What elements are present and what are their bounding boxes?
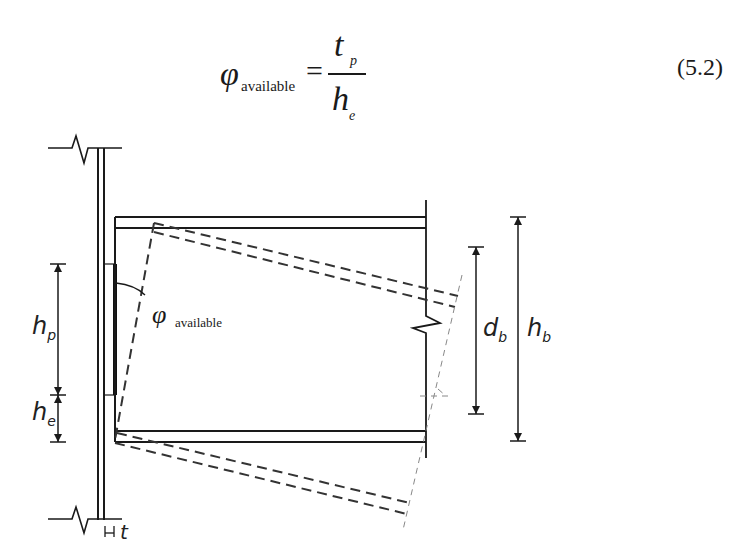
label-hb: hb (527, 314, 551, 345)
label-he-symbol: h (32, 398, 47, 426)
label-hb-symbol: h (527, 314, 542, 342)
label-db-subscript: b (498, 329, 507, 345)
label-hp-symbol: h (32, 312, 47, 340)
rotated-beam-end (403, 275, 462, 530)
column (48, 136, 122, 533)
label-he: he (32, 398, 56, 429)
label-db-symbol: d (483, 314, 498, 342)
end-plate (104, 264, 115, 395)
dimension-hb (510, 217, 526, 441)
dimension-db (468, 247, 484, 414)
label-hb-subscript: b (542, 329, 551, 345)
label-phi-available: φ (152, 300, 166, 330)
label-he-subscript: e (47, 413, 56, 429)
label-phi-available-subscript: available (175, 315, 222, 331)
label-db: db (483, 314, 507, 345)
rotated-beam (115, 223, 458, 514)
dimension-t (105, 526, 114, 537)
label-t: t (120, 520, 128, 543)
label-hp-subscript: p (47, 327, 56, 343)
label-hp: hp (32, 312, 56, 343)
